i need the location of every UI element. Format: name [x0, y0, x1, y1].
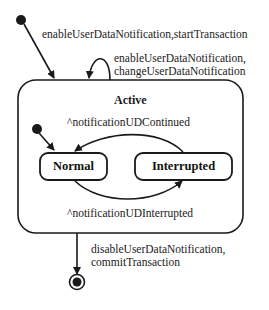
- final-state-dot: [73, 278, 82, 287]
- self-loop-arrow: [89, 59, 110, 80]
- inner-initial-arrow: [39, 133, 54, 150]
- self-loop-label-line1: enableUserDataNotification,: [114, 52, 246, 65]
- continued-transition-arrow: [75, 135, 183, 152]
- normal-state-label: Normal: [40, 159, 107, 174]
- continued-transition-label: ^notificationUDContinued: [67, 116, 190, 129]
- interrupted-transition-arrow: [75, 181, 182, 199]
- interrupted-transition-label: ^notificationUDInterrupted: [67, 207, 193, 220]
- initial-transition-label: enableUserDataNotification,startTransact…: [42, 28, 248, 41]
- active-state-title: Active: [114, 94, 147, 107]
- inner-initial-state-dot: [32, 124, 42, 134]
- final-transition-label-line2: commitTransaction: [91, 256, 225, 269]
- final-transition-label-line1: disableUserDataNotification,: [91, 243, 225, 256]
- interrupted-state-label: Interrupted: [135, 159, 232, 174]
- self-loop-label-line2: changeUserDataNotification: [114, 65, 246, 78]
- initial-state-dot: [16, 15, 26, 25]
- final-transition-label: disableUserDataNotification, commitTrans…: [91, 243, 225, 269]
- self-loop-label: enableUserDataNotification, changeUserDa…: [114, 52, 246, 78]
